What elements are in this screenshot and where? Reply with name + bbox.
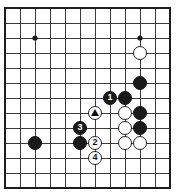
move-number-label: 2	[92, 138, 97, 147]
triangle-marker-icon	[91, 109, 99, 116]
go-board-grid	[0, 0, 180, 193]
move-number-label: 4	[92, 153, 97, 162]
go-diagram: 1324	[0, 0, 180, 193]
move-number-label: 1	[107, 93, 112, 102]
move-number-label: 3	[77, 123, 82, 132]
